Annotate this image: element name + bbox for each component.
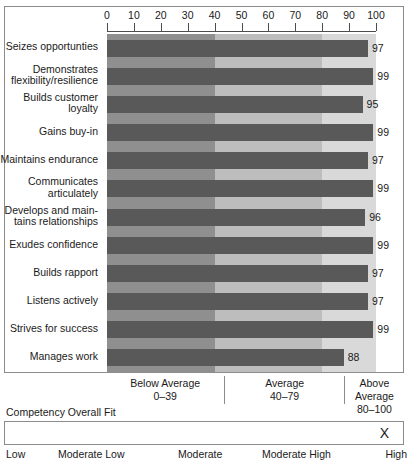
category-label: Maintains endurance (0, 154, 101, 166)
band-legend-label: Above Average (345, 377, 404, 403)
bar (107, 265, 368, 282)
bar-value-label: 99 (377, 70, 389, 82)
axis-tick-label: 40 (209, 9, 221, 21)
axis-tick-label: 80 (316, 9, 328, 21)
axis-tick-mark (134, 23, 135, 31)
band-legend-cell: Above Average80–100 (344, 376, 404, 404)
bar (107, 180, 373, 197)
category-label: Builds rapport (0, 267, 101, 279)
category-label-line: Maintains endurance (0, 154, 98, 166)
category-label-line: Seizes opportunties (0, 41, 98, 53)
axis-tick-mark (188, 23, 189, 31)
category-label-line: Gains buy-in (0, 126, 98, 138)
category-label: Gains buy-in (0, 126, 101, 138)
category-label-line: Strives for success (0, 323, 98, 335)
chart-plot-area (107, 34, 376, 372)
axis-tick-label: 70 (289, 9, 301, 21)
bar (107, 40, 368, 57)
axis-tick-label: 50 (236, 9, 248, 21)
bar (107, 237, 373, 254)
bar-value-label: 99 (377, 182, 389, 194)
bar-value-label: 95 (367, 98, 379, 110)
category-label-line: Listens actively (0, 295, 98, 307)
bar-value-label: 99 (377, 323, 389, 335)
performance-band-legend: Below Average0–39Average40–79Above Avera… (106, 376, 404, 404)
fit-scale-label: Moderate Low (58, 448, 125, 461)
axis-tick-label: 10 (128, 9, 140, 21)
bar-value-label: 99 (377, 126, 389, 138)
category-label: Listens actively (0, 295, 101, 307)
bar-value-label: 97 (372, 267, 384, 279)
overall-fit-marker-x: X (380, 424, 389, 443)
category-label-line: flexibility/resilience (0, 75, 98, 87)
category-label-line: articulately (0, 188, 98, 200)
bar (107, 349, 344, 366)
axis-tick-mark (322, 23, 323, 31)
axis-tick-label: 20 (155, 9, 167, 21)
bar-value-label: 99 (377, 239, 389, 251)
axis-tick-mark (295, 23, 296, 31)
category-label: Communicatesarticulately (0, 176, 101, 199)
bar-value-label: 88 (348, 351, 360, 363)
axis-tick-label: 100 (367, 9, 385, 21)
bar (107, 124, 373, 141)
category-label: Strives for success (0, 323, 101, 335)
axis-tick-mark (107, 23, 108, 31)
fit-scale-label: Moderate (178, 448, 222, 461)
axis-tick-mark (242, 23, 243, 31)
competency-chart: 0102030405060708090100 97Seizes opportun… (4, 6, 404, 373)
axis-tick-mark (161, 23, 162, 31)
bar (107, 68, 373, 85)
bar (107, 321, 373, 338)
category-label: Develops and main-tains relationships (0, 205, 101, 228)
category-label: Manages work (0, 351, 101, 363)
axis-tick-mark (376, 23, 377, 31)
axis-tick-mark (215, 23, 216, 31)
fit-scale-label: Low (6, 448, 25, 461)
axis-tick-label: 90 (343, 9, 355, 21)
category-label-line: loyalty (0, 103, 98, 115)
axis-tick-label: 60 (263, 9, 275, 21)
category-label: Exudes confidence (0, 239, 101, 251)
band-legend-label: Average (225, 377, 343, 390)
bar (107, 96, 363, 113)
band-legend-range: 80–100 (345, 403, 404, 416)
axis-tick-label: 30 (182, 9, 194, 21)
category-label: Seizes opportunties (0, 41, 101, 53)
axis-tick-mark (349, 23, 350, 31)
overall-fit-title: Competency Overall Fit (6, 406, 116, 419)
axis-tick-label: 0 (104, 9, 110, 21)
fit-scale-label: High (385, 448, 407, 461)
bar-value-label: 97 (372, 154, 384, 166)
band-legend-range: 40–79 (225, 390, 343, 403)
bar (107, 152, 368, 169)
band-legend-cell: Average40–79 (224, 376, 343, 404)
category-label: Demonstratesflexibility/resilience (0, 64, 101, 87)
category-label-line: Manages work (0, 351, 98, 363)
band-legend-range: 0–39 (106, 390, 224, 403)
overall-fit-scale: LowModerate LowModerateModerate HighHigh (0, 448, 413, 464)
bar-value-label: 97 (372, 295, 384, 307)
band-legend-cell: Below Average0–39 (106, 376, 224, 404)
bar (107, 293, 368, 310)
category-label: Builds customerloyalty (0, 92, 101, 115)
overall-fit-track[interactable]: X (4, 421, 404, 445)
chart-x-axis: 0102030405060708090100 (5, 7, 403, 34)
bar-value-label: 96 (369, 211, 381, 223)
band-legend-label: Below Average (106, 377, 224, 390)
category-label-line: Exudes confidence (0, 239, 98, 251)
bar (107, 209, 365, 226)
category-label-line: Builds rapport (0, 267, 98, 279)
axis-tick-mark (268, 23, 269, 31)
fit-scale-label: Moderate High (262, 448, 331, 461)
axis-baseline (107, 31, 376, 32)
bar-value-label: 97 (372, 42, 384, 54)
category-label-line: tains relationships (0, 216, 98, 228)
